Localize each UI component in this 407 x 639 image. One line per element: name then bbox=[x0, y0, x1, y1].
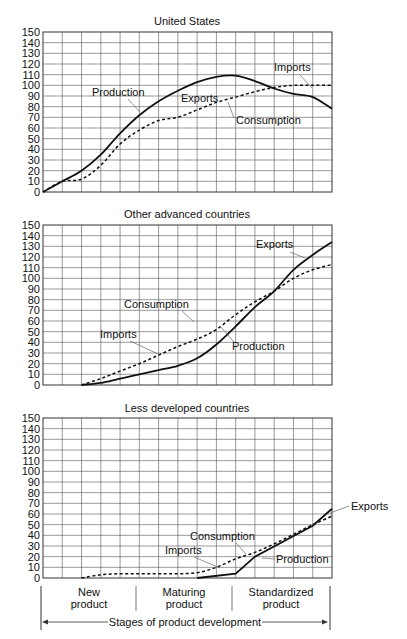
y-axis-ticks-oac: 1501401301201101009080706050403020100 bbox=[22, 219, 40, 391]
chart-title-us: United States bbox=[154, 15, 221, 27]
label-production-ldc: Production bbox=[276, 553, 329, 565]
pointer-imports-oac bbox=[130, 341, 158, 354]
pointer-production-us bbox=[128, 99, 140, 112]
product-life-cycle-figure: United States 15014013012011010090807060… bbox=[0, 0, 407, 639]
stage-new-line1: New bbox=[78, 586, 100, 598]
y-tick-label: 0 bbox=[34, 186, 40, 198]
pointer-exports-ldc bbox=[330, 506, 349, 513]
label-imports-ldc: Imports bbox=[165, 544, 202, 556]
chart-other-advanced-countries: Other advanced countries 150140130120110… bbox=[22, 208, 332, 391]
line-consumption-ldc bbox=[82, 516, 333, 578]
label-consumption-ldc: Consumption bbox=[190, 530, 255, 542]
stage-maturing-line1: Maturing bbox=[163, 586, 206, 598]
line-consumption-oac bbox=[82, 265, 333, 386]
label-exports-oac: Exports bbox=[256, 238, 294, 250]
arrow-right-icon bbox=[322, 620, 328, 625]
y-tick-label: 0 bbox=[34, 379, 40, 391]
label-consumption-us: Consumption bbox=[236, 114, 301, 126]
pointer-consumption-oac bbox=[182, 311, 194, 322]
x-axis-label: Stages of product development bbox=[109, 616, 261, 628]
pointer-imports-us bbox=[300, 75, 312, 88]
label-consumption-oac: Consumption bbox=[124, 298, 189, 310]
stage-maturing-line2: product bbox=[166, 598, 203, 610]
y-tick-label: 0 bbox=[34, 572, 40, 584]
label-imports-us: Imports bbox=[274, 61, 311, 73]
arrow-left-icon bbox=[42, 620, 48, 625]
label-exports-us: Exports bbox=[181, 92, 219, 104]
pointer-consumption-us bbox=[228, 102, 234, 118]
y-axis-ticks-ldc: 1501401301201101009080706050403020100 bbox=[22, 412, 40, 584]
chart-united-states: United States 15014013012011010090807060… bbox=[22, 15, 332, 198]
stage-standardized-line2: product bbox=[263, 598, 300, 610]
stage-standardized-line1: Standardized bbox=[249, 586, 314, 598]
chart-title-ldc: Less developed countries bbox=[125, 402, 250, 414]
pointer-production-ldc bbox=[262, 558, 275, 559]
pointer-consumption-ldc bbox=[236, 543, 246, 554]
y-axis-ticks-us: 1501401301201101009080706050403020100 bbox=[22, 26, 40, 198]
label-imports-oac: Imports bbox=[100, 328, 137, 340]
chart-less-developed-countries: Less developed countries 150140130120110… bbox=[22, 402, 389, 584]
stage-new-line2: product bbox=[71, 598, 108, 610]
label-production-oac: Production bbox=[232, 340, 285, 352]
stages-panel: New product Maturing product Standardize… bbox=[41, 586, 330, 630]
label-exports-ldc: Exports bbox=[351, 500, 389, 512]
chart-title-oac: Other advanced countries bbox=[124, 208, 250, 220]
label-production-us: Production bbox=[92, 86, 145, 98]
